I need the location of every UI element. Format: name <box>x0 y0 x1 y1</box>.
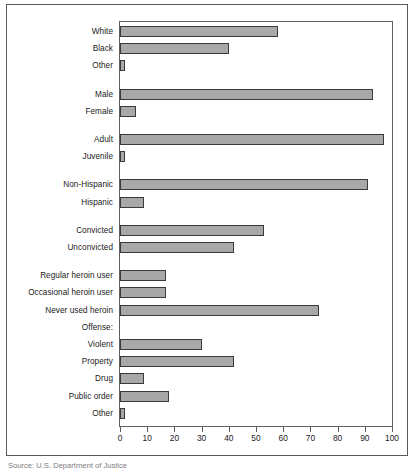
bar-row: Property <box>0 355 416 368</box>
bar <box>120 134 384 145</box>
bar-row: Public order <box>0 390 416 403</box>
bar <box>120 43 229 54</box>
bar-row: Occasional heroin user <box>0 286 416 299</box>
bar-row: Adult <box>0 133 416 146</box>
bar <box>120 339 202 350</box>
bar <box>120 106 136 117</box>
x-axis: 0102030405060708090100 <box>0 427 416 457</box>
category-label: Property <box>0 355 113 368</box>
x-tick-label: 80 <box>325 433 351 443</box>
bar-row: Violent <box>0 338 416 351</box>
bar <box>120 305 319 316</box>
category-label: Other <box>0 407 113 420</box>
bar <box>120 225 264 236</box>
x-tick <box>120 427 121 432</box>
bar-row: Female <box>0 105 416 118</box>
x-tick <box>174 427 175 432</box>
bar <box>120 373 144 384</box>
x-tick <box>283 427 284 432</box>
bar-row: Male <box>0 88 416 101</box>
x-tick <box>202 427 203 432</box>
x-tick-label: 90 <box>352 433 378 443</box>
bar-row: Regular heroin user <box>0 269 416 282</box>
x-tick <box>365 427 366 432</box>
bar <box>120 270 166 281</box>
bar-row: Unconvicted <box>0 241 416 254</box>
figure: WhiteBlackOtherMaleFemaleAdultJuvenileNo… <box>0 0 416 472</box>
x-tick-label: 60 <box>270 433 296 443</box>
bar-rows: WhiteBlackOtherMaleFemaleAdultJuvenileNo… <box>0 21 416 427</box>
category-label: Other <box>0 59 113 72</box>
x-tick <box>392 427 393 432</box>
bar-row: Other <box>0 407 416 420</box>
x-tick <box>229 427 230 432</box>
bar <box>120 242 234 253</box>
x-tick-label: 20 <box>161 433 187 443</box>
category-label: Violent <box>0 338 113 351</box>
x-tick-label: 0 <box>107 433 133 443</box>
bar-row: Juvenile <box>0 150 416 163</box>
figure-caption: Source: U.S. Department of Justice <box>8 461 408 470</box>
bar <box>120 287 166 298</box>
bar-row: Never used heroin <box>0 304 416 317</box>
x-tick <box>147 427 148 432</box>
category-label: Unconvicted <box>0 241 113 254</box>
bar <box>120 197 144 208</box>
x-tick-label: 10 <box>134 433 160 443</box>
category-label: Male <box>0 88 113 101</box>
bar-row: Non-Hispanic <box>0 178 416 191</box>
bar <box>120 356 234 367</box>
x-tick <box>310 427 311 432</box>
x-tick-label: 70 <box>297 433 323 443</box>
category-label: Offense: <box>0 321 113 334</box>
bar <box>120 408 125 419</box>
bar <box>120 60 125 71</box>
bar-row: Convicted <box>0 224 416 237</box>
x-tick-label: 40 <box>216 433 242 443</box>
bar <box>120 391 169 402</box>
bar-row: White <box>0 25 416 38</box>
x-tick <box>256 427 257 432</box>
x-tick <box>338 427 339 432</box>
category-label: Public order <box>0 390 113 403</box>
category-label: Black <box>0 42 113 55</box>
bar <box>120 151 125 162</box>
category-label: Hispanic <box>0 196 113 209</box>
x-tick-label: 30 <box>189 433 215 443</box>
category-label: Adult <box>0 133 113 146</box>
category-label: Never used heroin <box>0 304 113 317</box>
x-tick-label: 50 <box>243 433 269 443</box>
category-label: Juvenile <box>0 150 113 163</box>
group-header-row: Offense: <box>0 321 416 334</box>
bar-row: Hispanic <box>0 196 416 209</box>
category-label: Convicted <box>0 224 113 237</box>
category-label: Non-Hispanic <box>0 178 113 191</box>
category-label: Female <box>0 105 113 118</box>
bar-row: Drug <box>0 372 416 385</box>
category-label: Drug <box>0 372 113 385</box>
bar-row: Black <box>0 42 416 55</box>
category-label: Regular heroin user <box>0 269 113 282</box>
category-label: White <box>0 25 113 38</box>
bar <box>120 89 373 100</box>
x-tick-label: 100 <box>379 433 405 443</box>
category-label: Occasional heroin user <box>0 286 113 299</box>
bar-row: Other <box>0 59 416 72</box>
bar <box>120 179 368 190</box>
bar <box>120 26 278 37</box>
